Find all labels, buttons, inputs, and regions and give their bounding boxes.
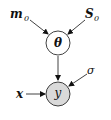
param-m0: m 0 (10, 7, 29, 23)
m0-sub: 0 (24, 14, 29, 23)
node-y: y (46, 82, 70, 106)
y-label: y (54, 86, 62, 100)
edge-s0-theta (68, 20, 85, 34)
s0-base: S (85, 7, 94, 21)
graphical-model-diagram: θ y m 0 S 0 x σ (0, 0, 111, 120)
theta-label: θ (54, 36, 62, 50)
param-s0: S 0 (85, 7, 99, 23)
node-theta: θ (46, 31, 70, 55)
edge-m0-theta (30, 20, 48, 34)
s0-sub: 0 (94, 14, 99, 23)
param-sigma: σ (87, 64, 95, 77)
param-x: x (15, 87, 24, 101)
edge-sigma-y (69, 74, 87, 86)
m0-base: m (10, 7, 23, 21)
